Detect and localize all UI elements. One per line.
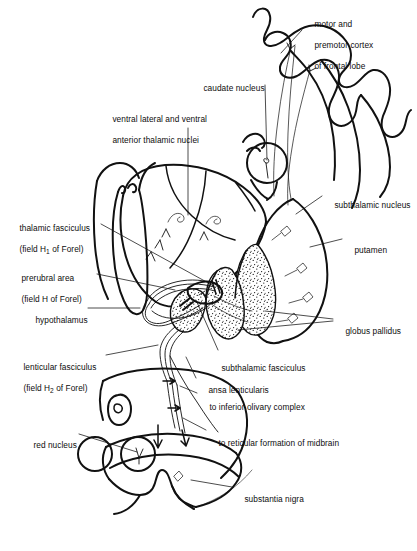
red-nucleus-label: red nucleus — [24, 430, 77, 461]
hypothalamus-outline — [94, 163, 155, 314]
to-reticular-formation-of-midbrain-label: to reticular formation of midbrain — [209, 428, 339, 459]
globus-pallidus-label: globus pallidus — [336, 316, 401, 347]
thalamic-fasciculus-label: thalamic fasciculus (field H1 of Forel) — [10, 213, 90, 265]
leader-putamen — [310, 239, 342, 247]
caudate-nucleus-label: caudate nucleus — [194, 73, 265, 104]
subthalamic-nucleus-label: subthalamic nucleus — [325, 190, 411, 221]
leader-red-nucleus — [79, 434, 137, 452]
putamen-cell-markers — [272, 226, 313, 323]
to-inferior-olivary-complex-label: to inferior olivary complex — [200, 392, 305, 423]
putamen-label: putamen — [345, 235, 387, 266]
leader-substantia-nigra — [191, 480, 232, 487]
leader-prerubral-area — [97, 274, 175, 290]
motor-and-premotor-cortex-label: motor and premotor cortex of frontal lob… — [305, 9, 373, 82]
leader-ansa-lenticularis — [186, 357, 196, 378]
lenticular-fasciculus-label: lenticular fasciculus (field H2 of Forel… — [14, 352, 96, 404]
hypothalamus-label: hypothalamus — [26, 305, 88, 336]
lenticular-fasciculus-field-line: (field H2 of Forel) — [23, 383, 87, 393]
caudate-nucleus-circle — [243, 134, 287, 200]
ventral-lateral-and-ventral-anterior-thalamic-nuclei-label: ventral lateral and ventral anterior tha… — [103, 104, 207, 156]
thalamic-nuclei-fiber-ticks — [146, 213, 221, 261]
leader-lenticular-fasciculus — [106, 345, 158, 355]
leader-globus-pallidus-lateral — [265, 311, 333, 319]
leader-thalamic-fasciculus — [101, 224, 212, 285]
thalamic-fasciculus-field-line: (field H1 of Forel) — [19, 244, 83, 254]
leader-inferior-olivary-complex — [180, 386, 197, 393]
basal-ganglia-diagram: motor and premotor cortex of frontal lob… — [0, 0, 417, 551]
leader-caudate-nucleus — [265, 85, 267, 160]
prerubral-area-field-line: (field H of Forel) — [21, 294, 81, 304]
substantia-nigra-label: substantia nigra — [235, 484, 304, 515]
